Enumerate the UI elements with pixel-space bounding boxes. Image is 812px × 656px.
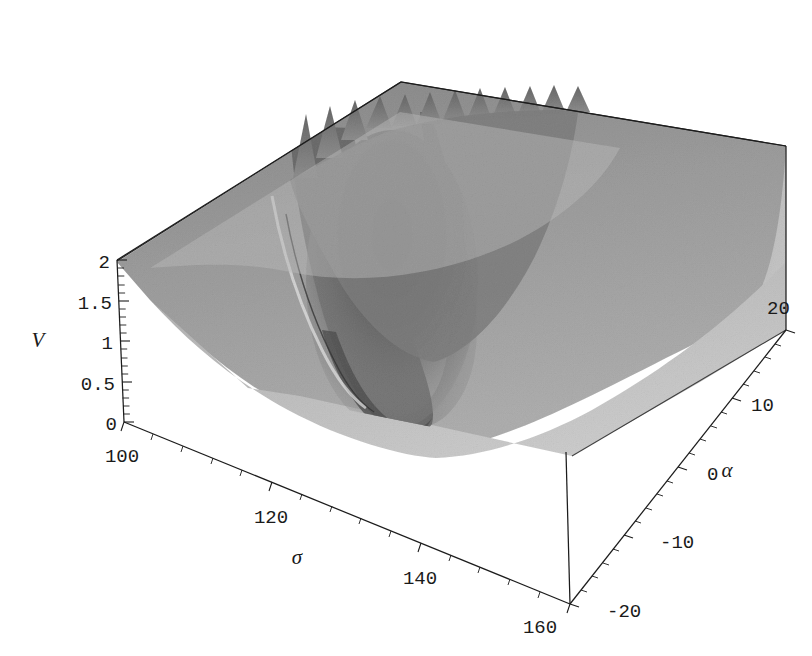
alpha-tick-label-0: 0: [707, 464, 718, 486]
v-tick-label-0p5: 0.5: [81, 374, 115, 396]
v-tick-label-1p5: 1.5: [78, 293, 112, 315]
v-axis-title: V: [32, 328, 47, 352]
sigma-tick-label-140: 140: [403, 568, 437, 590]
v-tick-label-0: 0: [106, 414, 117, 436]
sigma-axis-title: σ: [292, 545, 304, 569]
sigma-tick-label-160: 160: [523, 617, 557, 639]
sigma-axis-ticks: [121, 422, 570, 613]
v-tick-label-1: 1: [102, 333, 113, 355]
sigma-tick-label-120: 120: [254, 507, 288, 529]
box-front-vertical: [566, 452, 570, 604]
alpha-tick-label-10: 10: [751, 395, 774, 417]
v-tick-label-2: 2: [99, 252, 110, 274]
sigma-tick-label-100: 100: [105, 446, 139, 468]
plot-canvas: 2 1.5 1 0.5 0 V 100 120 140 160 σ -20 -1…: [0, 0, 812, 656]
surface-mesh: [117, 82, 786, 458]
alpha-tick-label-neg20: -20: [607, 601, 641, 623]
surface-plot-figure: 2 1.5 1 0.5 0 V 100 120 140 160 σ -20 -1…: [0, 0, 812, 656]
sigma-axis-line: [124, 422, 570, 604]
alpha-tick-label-20: 20: [767, 298, 790, 320]
alpha-tick-label-neg10: -10: [660, 532, 694, 554]
alpha-axis-title: α: [721, 458, 733, 482]
v-axis-ticks: [117, 260, 134, 422]
